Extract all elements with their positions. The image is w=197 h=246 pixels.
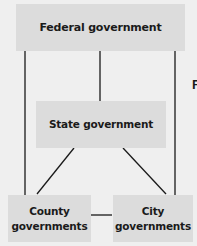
node-state-government: State government (36, 101, 166, 148)
node-label: Federal government (39, 20, 161, 35)
node-label: State government (49, 117, 153, 132)
node-federal-government: Federal government (16, 4, 185, 51)
edge-state-city (123, 148, 166, 194)
cut-off-text: F (192, 77, 197, 92)
node-county-governments: County governments (8, 195, 91, 242)
edge-state-county (37, 148, 74, 194)
node-label: County governments (12, 204, 88, 234)
diagram-canvas: Federal government State government Coun… (0, 0, 197, 246)
node-label: City governments (115, 204, 191, 234)
node-city-governments: City governments (113, 195, 193, 242)
